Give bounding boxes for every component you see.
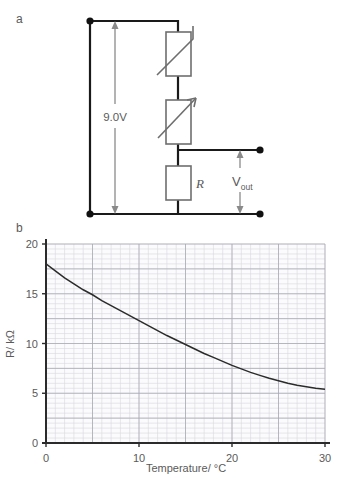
vout-label-main: V xyxy=(232,174,241,189)
figure-root: a b R 9. xyxy=(0,0,343,479)
supply-voltage-label: 9.0V xyxy=(103,111,127,123)
x-tick-label: 0 xyxy=(43,452,49,464)
x-tick-label: 30 xyxy=(319,452,331,464)
x-tick-label: 10 xyxy=(133,452,145,464)
x-axis-ticks: 0102030 xyxy=(43,443,331,464)
vout-arrowhead-down-icon xyxy=(237,206,244,214)
supply-arrowhead-up-icon xyxy=(112,21,119,29)
y-tick-label: 10 xyxy=(26,338,38,350)
resistance-temperature-chart: 05101520 0102030 Temperature/ °C R/ kΩ xyxy=(0,219,343,479)
x-axis-label: Temperature/ °C xyxy=(146,462,226,474)
resistor-label: R xyxy=(195,176,204,191)
terminal-top-left xyxy=(86,17,93,24)
terminal-output-right xyxy=(256,146,263,153)
vout-label-subscript: out xyxy=(241,182,253,192)
fixed-resistor-body xyxy=(166,166,191,200)
y-axis-label: R/ kΩ xyxy=(4,330,16,358)
y-tick-label: 0 xyxy=(32,437,38,449)
terminal-bottom-right xyxy=(256,210,263,217)
supply-arrowhead-down-icon xyxy=(112,206,119,214)
y-tick-label: 20 xyxy=(26,238,38,250)
circuit-diagram: R 9.0V Vout xyxy=(0,0,343,220)
x-tick-label: 20 xyxy=(226,452,238,464)
vout-label: Vout xyxy=(232,174,253,192)
y-tick-label: 15 xyxy=(26,288,38,300)
y-axis-ticks: 05101520 xyxy=(26,238,46,449)
vout-arrowhead-up-icon xyxy=(237,150,244,158)
y-tick-label: 5 xyxy=(32,387,38,399)
terminal-bottom-left xyxy=(86,210,93,217)
wire-top xyxy=(90,21,178,32)
